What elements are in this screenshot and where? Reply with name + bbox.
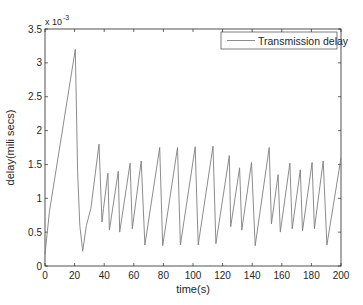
x-tick-label: 140: [244, 270, 261, 281]
y-multiplier-label: x 10: [45, 17, 62, 27]
x-tick-label: 40: [99, 270, 111, 281]
x-tick-label: 200: [333, 270, 350, 281]
x-tick-label: 100: [185, 270, 202, 281]
legend-label: Transmission delay: [258, 35, 349, 47]
y-multiplier-exponent: -3: [63, 14, 69, 21]
y-tick-label: 3.5: [28, 24, 42, 35]
line-chart: 020406080100120140160180200 00.511.522.5…: [0, 0, 363, 305]
y-axis-label: delay(mili secs): [4, 110, 16, 186]
y-tick-label: 1.5: [28, 159, 42, 170]
x-axis-label: time(s): [176, 283, 210, 295]
legend: Transmission delay: [221, 32, 349, 49]
x-tick-label: 0: [42, 270, 48, 281]
chart-container: 020406080100120140160180200 00.511.522.5…: [0, 0, 363, 305]
x-tick-label: 20: [69, 270, 81, 281]
x-tick-label: 80: [158, 270, 170, 281]
y-tick-label: 0.5: [28, 227, 42, 238]
y-tick-label: 0: [36, 261, 42, 272]
y-tick-label: 3: [36, 57, 42, 68]
y-tick-label: 1: [36, 193, 42, 204]
x-tick-label: 180: [303, 270, 320, 281]
x-tick-label: 60: [128, 270, 140, 281]
x-tick-label: 120: [214, 270, 231, 281]
y-tick-label: 2: [36, 125, 42, 136]
y-tick-label: 2.5: [28, 91, 42, 102]
plot-area: [45, 29, 341, 266]
x-tick-label: 160: [273, 270, 290, 281]
